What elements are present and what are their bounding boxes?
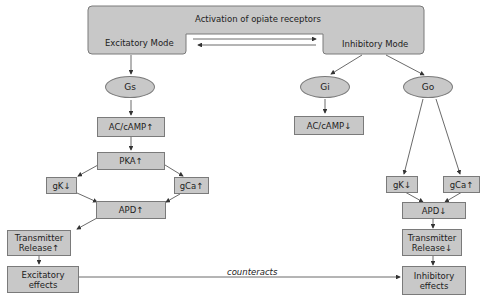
excitatory-mode-label: Excitatory Mode (105, 38, 174, 48)
excitatory-effects-node: Excitatory effects (7, 266, 79, 293)
excitatory-label: Excitatory (22, 270, 65, 280)
gi-node: Gi (300, 76, 350, 98)
transmitter-label: Transmitter (15, 233, 64, 243)
counteracts-label: counteracts (227, 267, 277, 277)
inhibitory-mode-label: Inhibitory Mode (342, 39, 408, 49)
opiate-receptor-diagram: Activation of opiate receptors Excitator… (0, 0, 487, 298)
transmitter-release-down-node: Transmitter Release↓ (402, 229, 462, 256)
transmitter-label: Transmitter (408, 233, 457, 243)
release-up-label: Release↑ (19, 243, 59, 253)
inhibitory-effects-node: Inhibitory effects (402, 266, 466, 295)
release-down-label: Release↓ (412, 243, 452, 253)
apd-down-node: APD↓ (402, 202, 466, 219)
gca-up-node-excitatory: gCa↑ (174, 177, 209, 194)
go-node: Go (403, 76, 453, 98)
gca-up-node-inhibitory: gCa↑ (443, 176, 480, 193)
ac-camp-down-node: AC/cAMP↓ (294, 116, 364, 135)
apd-up-node: APD↑ (96, 201, 166, 219)
header-title: Activation of opiate receptors (195, 14, 321, 24)
effects-label: effects (29, 280, 58, 290)
effects-label: effects (420, 281, 449, 291)
inhibitory-label: Inhibitory (414, 271, 454, 281)
gs-node: Gs (105, 76, 155, 98)
transmitter-release-up-node: Transmitter Release↑ (7, 230, 71, 256)
gk-down-node-excitatory: gK↓ (46, 177, 77, 194)
gk-down-node-inhibitory: gK↓ (386, 176, 418, 193)
pka-up-node: PKA↑ (97, 152, 165, 170)
ac-camp-up-node: AC/cAMP↑ (97, 117, 165, 137)
